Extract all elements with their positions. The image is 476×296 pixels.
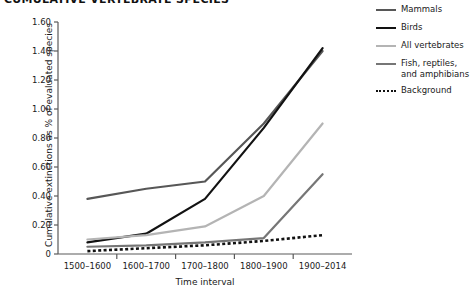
legend-swatch-icon [376,85,396,97]
legend-swatch-icon [376,4,396,16]
chart-figure: CUMULATIVE VERTEBRATE SPECIES Cumulative… [0,0,476,296]
legend-item[interactable]: Fish, reptiles, and amphibians [376,58,476,79]
chart-legend: MammalsBirdsAll vertebratesFish, reptile… [376,4,476,103]
legend-swatch-icon [376,22,396,34]
y-tick-label: 0.60 [32,162,51,172]
legend-item[interactable]: Birds [376,22,476,34]
y-tick-label: 1.40 [32,46,51,56]
y-tick-label: 1.00 [32,104,51,114]
legend-label: Mammals [401,4,442,15]
legend-swatch-icon [376,40,396,52]
x-tick-label: 1500–1600 [64,261,112,271]
x-tick-label: 1600–1700 [122,261,170,271]
y-tick-label: 1.20 [32,75,51,85]
x-axis-label: Time interval [58,277,352,287]
y-tick-label: 0 [46,249,51,259]
y-tick-label: 0.20 [32,220,51,230]
y-tick-label: 1.60 [32,17,51,27]
legend-label: Birds [401,22,422,33]
series-line [87,51,322,199]
legend-item[interactable]: Background [376,85,476,97]
legend-item[interactable]: All vertebrates [376,40,476,52]
x-tick-label: 1900–2014 [299,261,347,271]
legend-item[interactable]: Mammals [376,4,476,16]
x-tick-label: 1800–1900 [240,261,288,271]
x-tick-label: 1700–1800 [181,261,229,271]
legend-label: Background [401,85,452,96]
y-tick-label: 0.80 [32,133,51,143]
legend-label: All vertebrates [401,40,464,51]
legend-swatch-icon [376,58,396,70]
legend-label: Fish, reptiles, and amphibians [401,58,469,79]
y-tick-label: 0.40 [32,191,51,201]
